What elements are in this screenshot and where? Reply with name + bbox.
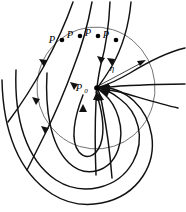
label-p-zero: P xyxy=(75,82,83,93)
label-p3: P xyxy=(84,27,92,38)
label-p-zero-subscript: 0 xyxy=(84,87,88,95)
trajectory-top-4 xyxy=(98,2,131,87)
label-p1: P xyxy=(48,34,56,45)
eta-radius-line xyxy=(100,62,143,85)
point-marker-p1 xyxy=(60,38,65,43)
trajectory-right-mid xyxy=(100,84,185,88)
flow-arrowhead-right-lower xyxy=(100,90,110,97)
point-marker-p3 xyxy=(96,34,101,39)
label-p4: P xyxy=(102,29,110,40)
trajectory-top-3 xyxy=(97,2,110,87)
label-eta: η xyxy=(110,63,115,73)
phase-portrait-figure: P P P P P 0 η xyxy=(0,0,186,212)
trajectory-right-lower xyxy=(100,89,178,108)
trajectory-bottom-vertical xyxy=(95,90,97,175)
point-marker-p4 xyxy=(114,38,119,43)
flow-arrowhead-top-center xyxy=(97,56,105,64)
flow-arrowhead-teardrop xyxy=(79,104,87,112)
trajectory-inner-teardrop xyxy=(74,92,103,156)
trajectory-bottom-right xyxy=(98,90,112,178)
point-marker-p2 xyxy=(78,34,83,39)
diagram-canvas: P P P P P 0 η xyxy=(0,0,186,212)
label-p2: P xyxy=(66,29,74,40)
point-marker-p-zero xyxy=(94,85,100,91)
